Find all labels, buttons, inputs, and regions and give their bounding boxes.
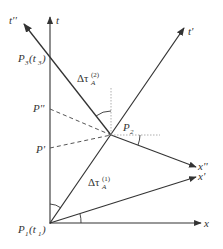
svg-text:1: 1 [25, 230, 29, 238]
svg-text:Δτ: Δτ [88, 176, 100, 188]
point-p2-label: P 2 [122, 121, 134, 136]
t-double-prime-axis [24, 24, 111, 135]
svg-text:P: P [17, 223, 25, 235]
angle-arc-p1-right [80, 214, 81, 223]
svg-text:Δτ: Δτ [77, 72, 89, 84]
angle-arc-p2-right [138, 135, 140, 145]
point-p3-label: P 3 (t 3 ) [17, 52, 46, 67]
svg-text:P: P [122, 121, 130, 133]
svg-text:2: 2 [130, 128, 134, 136]
svg-text:(1): (1) [102, 175, 111, 183]
t-prime-axis [50, 28, 184, 223]
interval-tau1-label: Δτ A (1) [88, 175, 111, 191]
t-prime-label: t' [188, 25, 194, 37]
x-prime-label: x' [197, 170, 206, 182]
spacetime-diagram: t'' t t' x'' x' x P 3 (t 3 ) P'' P' P 2 … [0, 0, 223, 249]
angle-arc-p1-top [50, 204, 61, 208]
svg-text:(2): (2) [91, 71, 100, 79]
svg-text:1: 1 [38, 230, 42, 238]
svg-text:A: A [101, 183, 107, 191]
svg-text:): ) [41, 223, 46, 236]
svg-text:A: A [90, 79, 96, 87]
x-label: x [203, 217, 209, 229]
point-p-double-prime-label: P'' [32, 102, 45, 114]
svg-text:(t: (t [29, 223, 37, 236]
x-prime-axis [50, 177, 196, 223]
dashed-line-p-prime [50, 135, 111, 148]
interval-tau2-label: Δτ A (2) [77, 71, 100, 87]
point-p-prime-label: P' [35, 143, 46, 155]
point-p1-label: P 1 (t 1 ) [17, 223, 46, 238]
t-label: t [56, 14, 60, 26]
angle-arc-p2-top [96, 111, 111, 116]
svg-text:P: P [17, 52, 25, 64]
svg-text:): ) [41, 52, 46, 65]
svg-text:(t: (t [29, 52, 37, 65]
x-double-prime-axis [111, 135, 196, 167]
t-double-prime-label: t'' [9, 14, 17, 26]
